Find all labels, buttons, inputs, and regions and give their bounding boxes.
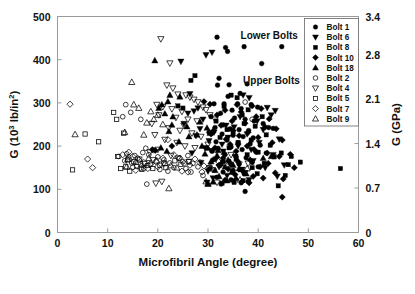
legend-item-label: Bolt 5 xyxy=(327,94,350,103)
data-point xyxy=(120,114,125,119)
legend-item-label: Bolt 9 xyxy=(327,115,350,124)
data-point xyxy=(116,154,121,159)
data-point xyxy=(182,144,188,150)
series-bolt-7 xyxy=(67,101,227,175)
data-point xyxy=(298,160,302,164)
data-point xyxy=(237,127,242,132)
data-point xyxy=(158,37,164,43)
data-point xyxy=(255,134,261,140)
data-point xyxy=(189,78,193,82)
data-point xyxy=(176,139,182,145)
data-point xyxy=(148,108,154,114)
data-point xyxy=(170,113,176,119)
data-point xyxy=(217,76,222,81)
data-point xyxy=(242,44,247,49)
data-point xyxy=(255,172,259,176)
data-point xyxy=(259,61,264,66)
scatter-plot-svg: 010203040506001002003004005003.42.82.11.… xyxy=(0,0,415,294)
data-point xyxy=(89,165,95,171)
y-tick-label-right: 2.8 xyxy=(366,49,381,61)
legend-item-label: Bolt 7 xyxy=(327,105,350,114)
data-point xyxy=(286,163,290,167)
data-point xyxy=(235,96,239,100)
data-point xyxy=(202,151,208,157)
x-tick-label: 30 xyxy=(202,237,214,249)
data-point xyxy=(162,110,168,116)
data-point xyxy=(246,108,250,112)
data-point xyxy=(229,93,233,97)
data-point xyxy=(144,182,149,187)
data-point xyxy=(197,126,203,132)
y-axis-title-left: G (103 lb/in2) xyxy=(7,90,20,158)
data-point xyxy=(264,133,268,137)
y-tick-label-left: 0 xyxy=(45,227,51,239)
x-tick-label: 0 xyxy=(55,237,61,249)
data-point xyxy=(236,141,240,145)
data-point xyxy=(250,166,254,170)
y-tick-label-right: 3.4 xyxy=(366,11,381,23)
legend-item-label: Bolt 2 xyxy=(327,74,350,83)
data-point xyxy=(141,132,147,138)
y-tick-label-left: 100 xyxy=(33,183,51,195)
data-point xyxy=(206,139,212,145)
data-point xyxy=(151,116,157,122)
legend-item-label: Bolt 18 xyxy=(327,64,355,73)
data-point xyxy=(240,147,245,152)
data-point xyxy=(227,82,232,87)
data-point xyxy=(176,104,180,108)
data-point xyxy=(167,61,173,67)
y-tick-label-right: 0 xyxy=(366,227,372,239)
data-point xyxy=(225,128,229,132)
data-point xyxy=(166,185,172,191)
data-point xyxy=(83,132,87,136)
legend-marker-icon xyxy=(313,25,318,30)
data-point xyxy=(230,108,235,113)
legend-item-label: Bolt 1 xyxy=(327,23,350,32)
data-point xyxy=(253,124,257,128)
y-tick-label-right: 1.4 xyxy=(366,138,381,150)
data-point xyxy=(159,179,165,185)
data-point xyxy=(243,100,248,105)
data-point xyxy=(67,101,73,107)
data-point xyxy=(169,143,175,149)
legend-item-label: Bolt 8 xyxy=(327,43,350,52)
data-point xyxy=(225,49,230,54)
data-point xyxy=(160,121,166,127)
data-point xyxy=(128,169,132,173)
data-point xyxy=(153,181,159,187)
chart-figure: 010203040506001002003004005003.42.82.11.… xyxy=(0,0,415,294)
data-point xyxy=(152,57,158,63)
data-point xyxy=(70,168,74,172)
data-point xyxy=(186,153,191,158)
data-point xyxy=(167,92,173,98)
y-tick-label-right: 0.7 xyxy=(366,182,381,194)
data-point xyxy=(165,98,171,104)
data-point xyxy=(193,74,197,78)
legend-item-label: Bolt 4 xyxy=(327,84,350,93)
data-point xyxy=(204,125,210,131)
data-point xyxy=(291,165,297,171)
data-point xyxy=(276,184,280,188)
data-point xyxy=(122,129,128,135)
data-point xyxy=(256,150,260,154)
data-point xyxy=(72,131,78,137)
data-point xyxy=(218,135,222,139)
x-tick-label: 10 xyxy=(102,237,114,249)
data-point xyxy=(338,166,342,170)
annotation-label: Upper Bolts xyxy=(243,75,300,86)
data-point xyxy=(129,79,135,85)
data-point xyxy=(214,152,220,158)
y-axis-title-right: G (GPa) xyxy=(390,103,402,146)
data-point xyxy=(201,98,207,104)
data-point xyxy=(232,180,236,184)
data-points xyxy=(67,35,343,200)
data-point xyxy=(164,148,170,154)
data-point xyxy=(131,101,137,107)
data-point xyxy=(158,163,162,167)
data-point xyxy=(243,189,248,194)
data-point xyxy=(138,117,143,122)
data-point xyxy=(189,151,195,157)
data-point xyxy=(185,111,191,117)
data-point xyxy=(128,110,133,115)
data-point xyxy=(279,44,284,49)
